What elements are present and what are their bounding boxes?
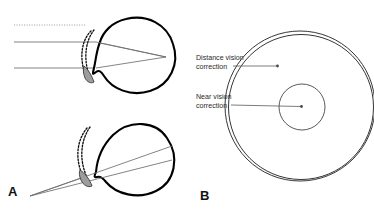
figure-root: A Distance vision correction Near vision… (0, 0, 374, 213)
panel-letter-a: A (8, 184, 18, 199)
bottom-eye-ray-axis (30, 176, 87, 196)
lens-face-group (225, 31, 374, 181)
distance-vision-label-line1: Distance vision (196, 54, 244, 62)
near-vision-label-line1: Near vision (196, 93, 232, 101)
bottom-eye-globe (95, 124, 175, 195)
top-eye-group (14, 18, 175, 93)
panel-letter-b: B (200, 188, 209, 203)
distance-vision-label-line2: correction (196, 63, 227, 71)
near-vision-leader-tip (300, 105, 303, 108)
near-vision-label-line2: correction (196, 102, 227, 110)
near-vision-leader-line (231, 105, 301, 107)
distance-vision-callout: Distance vision correction (196, 54, 279, 71)
near-vision-callout: Near vision correction (196, 93, 303, 110)
optics-figure-svg: A Distance vision correction Near vision… (0, 0, 374, 213)
top-eye-globe (93, 18, 175, 93)
bottom-eye-group (30, 124, 174, 196)
distance-vision-leader-tip (276, 65, 279, 68)
bottom-eye-contact-lens-outline (78, 128, 87, 174)
